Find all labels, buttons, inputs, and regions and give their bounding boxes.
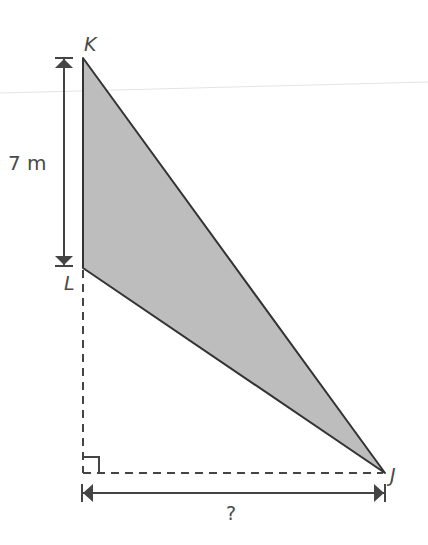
vertex-label-k: K <box>84 33 98 55</box>
vertical-dimension-arrow <box>55 58 73 266</box>
measurement-label-unknown: ? <box>226 502 236 524</box>
right-angle-marker <box>83 457 99 473</box>
horizontal-dimension-arrow <box>82 484 385 502</box>
shaded-triangle-klj <box>83 58 385 473</box>
vertex-label-j: J <box>386 464 396 486</box>
vertex-label-l: L <box>64 272 75 294</box>
measurement-label-kl: 7 m <box>8 151 47 175</box>
triangle-diagram: K L J 7 m ? <box>0 0 428 545</box>
